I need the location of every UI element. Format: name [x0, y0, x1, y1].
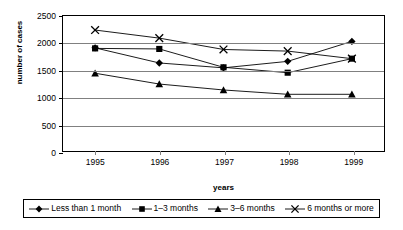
y-tick-mark — [59, 16, 63, 17]
y-axis-title: number of cases — [15, 0, 24, 108]
y-tick-mark — [59, 43, 63, 44]
gridline — [63, 126, 384, 127]
x-tick-label: 1996 — [150, 157, 169, 167]
legend-marker-square-icon — [132, 204, 152, 214]
x-tick-mark — [289, 151, 290, 155]
x-tick-label: 1998 — [280, 157, 299, 167]
legend-marker-diamond-icon — [29, 204, 49, 214]
y-tick-label: 1000 — [37, 93, 56, 103]
y-tick-label: 500 — [42, 121, 56, 131]
data-point-marker — [92, 45, 98, 51]
x-tick-mark — [95, 151, 96, 155]
legend-label: 6 months or more — [307, 204, 374, 213]
line-chart: number of cases 050010001500200025001995… — [0, 0, 403, 230]
x-tick-label: 1995 — [86, 157, 105, 167]
chart-legend: Less than 1 month1–3 months3–6 months6 m… — [23, 199, 380, 218]
legend-item-2[interactable]: 3–6 months — [208, 204, 274, 214]
y-tick-label: 2000 — [37, 38, 56, 48]
data-point-marker — [156, 59, 163, 66]
data-point-marker — [284, 58, 291, 65]
y-tick-mark — [59, 153, 63, 154]
data-point-marker — [156, 46, 162, 52]
y-tick-label: 2500 — [37, 11, 56, 21]
legend-item-1[interactable]: 1–3 months — [132, 204, 198, 214]
plot-area: 0500100015002000250019951996199719981999 — [62, 15, 385, 152]
x-tick-mark — [354, 151, 355, 155]
legend-item-3[interactable]: 6 months or more — [285, 204, 374, 214]
series-2 — [91, 69, 355, 97]
y-tick-mark — [59, 71, 63, 72]
x-tick-label: 1999 — [344, 157, 363, 167]
y-tick-mark — [59, 98, 63, 99]
gridline — [63, 98, 384, 99]
legend-item-0[interactable]: Less than 1 month — [29, 204, 121, 214]
legend-label: Less than 1 month — [51, 204, 121, 213]
legend-label: 3–6 months — [230, 204, 274, 213]
y-tick-label: 0 — [51, 148, 56, 158]
y-tick-mark — [59, 126, 63, 127]
gridline — [63, 43, 384, 44]
x-tick-mark — [160, 151, 161, 155]
legend-marker-triangle-icon — [208, 204, 228, 214]
legend-marker-cross-icon — [285, 204, 305, 214]
series-line — [95, 41, 352, 67]
gridline — [63, 71, 384, 72]
x-tick-label: 1997 — [215, 157, 234, 167]
data-point-marker — [220, 64, 226, 70]
legend-label: 1–3 months — [154, 204, 198, 213]
y-tick-label: 1500 — [37, 66, 56, 76]
series-layer — [63, 16, 384, 151]
x-axis-title: years — [62, 183, 385, 192]
x-tick-mark — [225, 151, 226, 155]
